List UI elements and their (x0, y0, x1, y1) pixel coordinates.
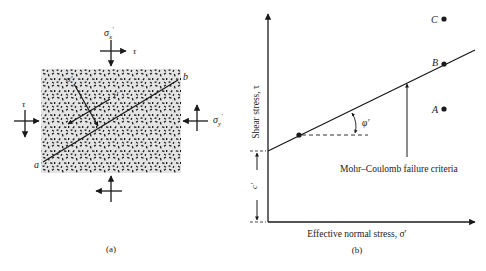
right-normal-stress-label: σy′ (213, 112, 223, 128)
right-stress-cross: σy′ (183, 105, 223, 131)
plane-start-label: a (34, 159, 39, 170)
cohesion-label: c′ (249, 182, 259, 189)
plane-end-label: b (183, 71, 188, 82)
friction-angle-arc (352, 113, 356, 133)
left-shear-label: τ (22, 99, 26, 109)
point-b (441, 61, 446, 66)
top-normal-stress-label: σx′ (104, 25, 114, 41)
point-c-label: C (431, 14, 438, 25)
point-c (441, 16, 446, 21)
envelope-point (296, 132, 301, 137)
left-stress-cross: τ (14, 99, 39, 137)
figure: a b σ′ τ′ σx′ τ τ σy′ (0, 0, 486, 271)
panel-b: Shear stress, τ Effective normal stress,… (249, 14, 475, 255)
top-shear-label: τ (133, 46, 137, 56)
plane-normal-label: σ′ (66, 74, 73, 84)
x-axis-label: Effective normal stress, σ′ (307, 229, 406, 239)
bottom-stress-cross (96, 176, 122, 202)
envelope-label: Mohr–Coulomb failure criteria (340, 164, 458, 174)
panel-a: a b σ′ τ′ σx′ τ τ σy′ (14, 25, 223, 254)
y-axis-label: Shear stress, τ (251, 85, 261, 139)
point-a (441, 106, 446, 111)
top-stress-cross: σx′ τ (100, 25, 137, 66)
friction-angle-label: φ′ (362, 118, 370, 128)
point-a-label: A (431, 104, 439, 115)
panel-b-caption: (b) (352, 245, 363, 255)
point-b-label: B (432, 57, 438, 68)
panel-a-caption: (a) (106, 244, 116, 254)
